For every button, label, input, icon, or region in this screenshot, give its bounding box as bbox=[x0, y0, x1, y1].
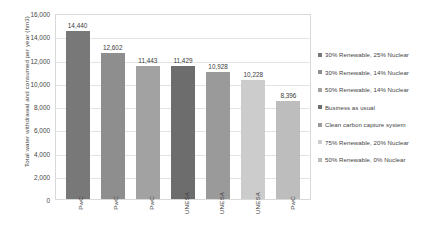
y-axis-tick-label: 6,000 bbox=[34, 127, 50, 134]
bar-value-label: 14,440 bbox=[68, 22, 88, 29]
bar-value-label: 12,602 bbox=[103, 44, 123, 51]
bars-container: 14,44012,60211,44311,42910,92810,2288,39… bbox=[56, 15, 310, 199]
y-axis-tick-label: 16,000 bbox=[30, 11, 50, 18]
legend-label: 50% Renewable, 0% Nuclear bbox=[325, 156, 406, 163]
y-axis-tick-label: 8,000 bbox=[34, 104, 50, 111]
x-tick-slot: UNESA bbox=[165, 201, 200, 241]
plot-area: 14,44012,60211,44311,42910,92810,2288,39… bbox=[55, 14, 311, 200]
legend: 30% Renewable, 25% Nuclear30% Renewable,… bbox=[318, 46, 423, 169]
x-axis-tick-label: PwC bbox=[112, 196, 119, 210]
x-tick-slot: UNESA bbox=[201, 201, 236, 241]
x-tick-slot: PwC bbox=[272, 201, 307, 241]
bar[interactable]: 11,443 bbox=[136, 66, 160, 199]
x-axis-tick-labels: PwCPwCPwCUNESAUNESAUNESAPwC bbox=[55, 201, 311, 241]
legend-label: 30% Renewable, 25% Nuclear bbox=[325, 51, 409, 58]
bar-chart: Total water withdrawal and consumed per … bbox=[0, 0, 425, 243]
bar-value-label: 11,443 bbox=[138, 57, 157, 64]
legend-item[interactable]: 50% Renewable, 14% Nuclear bbox=[318, 81, 423, 99]
bar-slot: 11,429 bbox=[165, 15, 200, 199]
legend-swatch-icon bbox=[318, 123, 322, 127]
x-tick-slot: PwC bbox=[94, 201, 129, 241]
legend-item[interactable]: Clean carbon capture system bbox=[318, 116, 423, 134]
legend-swatch-icon bbox=[318, 88, 322, 92]
bar[interactable]: 10,928 bbox=[206, 72, 230, 199]
legend-label: Clean carbon capture system bbox=[325, 121, 406, 128]
bar-slot: 14,440 bbox=[60, 15, 95, 199]
legend-swatch-icon bbox=[318, 53, 322, 57]
x-tick-slot: PwC bbox=[59, 201, 94, 241]
legend-swatch-icon bbox=[318, 158, 322, 162]
bar-value-label: 8,396 bbox=[280, 92, 296, 99]
bar-value-label: 10,228 bbox=[243, 71, 263, 78]
x-axis-tick-label: PwC bbox=[148, 196, 155, 210]
legend-item[interactable]: 30% Renewable, 14% Nuclear bbox=[318, 64, 423, 82]
x-axis-tick-label: UNESA bbox=[183, 192, 190, 214]
legend-label: Business as usual bbox=[325, 104, 375, 111]
bar[interactable]: 12,602 bbox=[101, 53, 125, 199]
y-axis-tick-labels: 16,00014,00012,00010,0008,0006,0004,0002… bbox=[12, 14, 50, 200]
bar[interactable]: 14,440 bbox=[66, 31, 90, 199]
legend-item[interactable]: 50% Renewable, 0% Nuclear bbox=[318, 151, 423, 169]
x-tick-slot: PwC bbox=[130, 201, 165, 241]
x-axis-tick-label: PwC bbox=[77, 196, 84, 210]
legend-item[interactable]: Business as usual bbox=[318, 99, 423, 117]
legend-label: 30% Renewable, 14% Nuclear bbox=[325, 69, 409, 76]
bar-value-label: 11,429 bbox=[173, 57, 192, 64]
bar[interactable]: 10,228 bbox=[241, 80, 265, 199]
bar-value-label: 10,928 bbox=[208, 63, 228, 70]
bar[interactable]: 11,429 bbox=[171, 66, 195, 199]
y-axis-tick-label: 12,000 bbox=[30, 57, 50, 64]
x-axis-tick-label: UNESA bbox=[218, 192, 225, 214]
legend-item[interactable]: 75% Renewable, 20% Nuclear bbox=[318, 134, 423, 152]
y-axis-tick-label: 0 bbox=[46, 197, 50, 204]
y-axis-tick-label: 4,000 bbox=[34, 150, 50, 157]
bar-slot: 11,443 bbox=[130, 15, 165, 199]
y-axis-tick-label: 14,000 bbox=[30, 34, 50, 41]
legend-label: 75% Renewable, 20% Nuclear bbox=[325, 139, 409, 146]
legend-swatch-icon bbox=[318, 105, 322, 109]
legend-item[interactable]: 30% Renewable, 25% Nuclear bbox=[318, 46, 423, 64]
legend-swatch-icon bbox=[318, 70, 322, 74]
x-axis-tick-label: PwC bbox=[289, 196, 296, 210]
bar-slot: 10,228 bbox=[236, 15, 271, 199]
y-axis-tick-label: 10,000 bbox=[30, 80, 50, 87]
y-axis-tick-label: 2,000 bbox=[34, 173, 50, 180]
bar-slot: 12,602 bbox=[95, 15, 130, 199]
legend-label: 50% Renewable, 14% Nuclear bbox=[325, 86, 409, 93]
bar[interactable]: 8,396 bbox=[276, 101, 300, 199]
bar-slot: 8,396 bbox=[271, 15, 306, 199]
x-axis-tick-label: UNESA bbox=[254, 192, 261, 214]
legend-swatch-icon bbox=[318, 140, 322, 144]
x-tick-slot: UNESA bbox=[236, 201, 271, 241]
bar-slot: 10,928 bbox=[201, 15, 236, 199]
